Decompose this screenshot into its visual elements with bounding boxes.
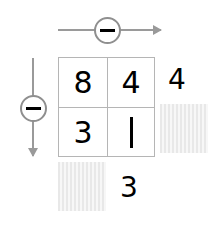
arrow-right-head (153, 25, 162, 35)
digit-one-stroke (130, 117, 133, 148)
grid-cell-r0c1[interactable]: 4 (107, 58, 155, 107)
grid-cell-r0c0[interactable]: 8 (59, 58, 107, 107)
minus-bar (100, 29, 115, 32)
answer-placeholder-row-bottom[interactable] (160, 104, 208, 153)
result-column-left: 3 (120, 174, 138, 202)
answer-placeholder-column-right[interactable] (58, 162, 106, 211)
grid-cell-r1c0[interactable]: 3 (59, 108, 107, 157)
arrow-down-head (28, 148, 38, 157)
grid-cell-r1c1[interactable] (107, 108, 155, 157)
circled-minus-icon-left[interactable] (20, 95, 47, 122)
minus-bar (26, 107, 41, 110)
circled-minus-icon-top[interactable] (94, 17, 121, 44)
result-row-top: 4 (168, 66, 186, 94)
number-grid: 8 4 3 (58, 57, 155, 157)
diagram-canvas: 8 4 3 4 3 (0, 0, 220, 227)
